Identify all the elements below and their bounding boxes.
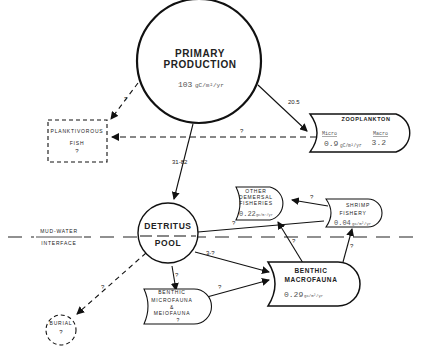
node-primary-production: PRIMARY PRODUCTION 103 gC/m²/yr bbox=[137, 0, 261, 123]
node-other-demersal-fisheries: OTHER DEMERSAL FISHERIES 0.22 gC/m²/yr bbox=[236, 187, 283, 220]
demersal-value: 0.22 bbox=[239, 210, 256, 218]
food-web-diagram: MUD-WATER INTERFACE 20.5 31-82 ? ? ? ? ?… bbox=[0, 0, 422, 354]
interface-label-1: MUD-WATER bbox=[40, 228, 78, 234]
node-shrimp-fishery: SHRIMP FISHERY 0.04 gC/m²/yr bbox=[326, 199, 382, 227]
node-detritus-pool: DETRITUS POOL bbox=[138, 203, 198, 263]
node-benthic-macrofauna: BENTHIC MACROFAUNA 0.29 gC/m²/yr bbox=[268, 262, 360, 306]
arrow-macro-to-demersal bbox=[278, 222, 303, 263]
micro-line-2: MICROFAUNA bbox=[151, 297, 192, 303]
macro-line-2: MACROFAUNA bbox=[285, 276, 338, 283]
demersal-line-3: FISHERIES bbox=[239, 200, 273, 206]
fish-line-1: PLANKTIVOROUS bbox=[51, 128, 104, 134]
flow-label-pp-fish: ? bbox=[124, 96, 128, 102]
pp-title-1: PRIMARY bbox=[175, 48, 225, 59]
macro-line-1: BENTHIC bbox=[294, 267, 327, 274]
arrow-detritus-to-burial bbox=[77, 253, 146, 314]
arrow-micro-to-macro bbox=[207, 280, 269, 297]
detritus-line-2: POOL bbox=[155, 238, 182, 248]
arrow-shrimp-to-demersal bbox=[292, 200, 328, 206]
flow-label-detritus-shrimp: ? bbox=[232, 220, 236, 226]
line-detritus-to-shrimp bbox=[198, 221, 324, 232]
micro-line-4: MEIOFAUNA bbox=[154, 310, 191, 316]
flow-label-zoo-fish: ? bbox=[240, 128, 244, 134]
demersal-unit: gC/m²/yr bbox=[256, 213, 273, 217]
zoo-unit: gC/m²/yr bbox=[340, 143, 362, 148]
pp-unit: gC/m²/yr bbox=[195, 82, 224, 89]
macro-unit: gC/m²/yr bbox=[304, 293, 324, 298]
flow-label-micro-macro: ? bbox=[218, 284, 222, 290]
macro-value: 0.29 bbox=[284, 290, 303, 299]
node-burial: BURIAL ? bbox=[46, 315, 76, 345]
shrimp-value: 0.04 bbox=[334, 219, 351, 227]
flow-label-detritus-macro: 3-? bbox=[206, 250, 215, 256]
micro-line-1: BENTHIC bbox=[158, 289, 186, 295]
flow-label-macro-demersal: ? bbox=[292, 238, 296, 244]
shrimp-line-1: SHRIMP bbox=[346, 202, 370, 208]
arrow-pp-to-zooplankton bbox=[258, 85, 307, 131]
flow-label-pp-detritus: 31-82 bbox=[172, 159, 188, 165]
arrow-detritus-to-micro bbox=[172, 266, 176, 290]
node-zooplankton: ZOOPLANKTON Micro Macro 0.9 gC/m²/yr 3.2 bbox=[310, 114, 410, 152]
node-planktivorous-fish: PLANKTIVOROUS FISH ? bbox=[48, 120, 107, 162]
flow-label-macro-shrimp: ? bbox=[350, 243, 354, 249]
shrimp-unit: gC/m²/yr bbox=[352, 221, 372, 226]
detritus-line-1: DETRITUS bbox=[144, 221, 191, 231]
pp-value: 103 bbox=[178, 80, 193, 89]
mud-water-interface: MUD-WATER INTERFACE bbox=[8, 226, 422, 248]
flow-label-detritus-micro: ? bbox=[175, 272, 179, 278]
pp-title-2: PRODUCTION bbox=[163, 59, 236, 70]
zoo-micro-value: 0.9 bbox=[324, 139, 339, 148]
fish-line-2: FISH bbox=[70, 140, 85, 146]
flow-label-pp-zoo: 20.5 bbox=[288, 99, 300, 105]
micro-value: ? bbox=[177, 317, 180, 323]
flow-label-shrimp-demersal: ? bbox=[310, 194, 314, 200]
shrimp-line-2: FISHERY bbox=[339, 210, 366, 216]
zoo-macro-label: Macro bbox=[373, 131, 388, 137]
interface-label-2: INTERFACE bbox=[41, 240, 76, 246]
zoo-title: ZOOPLANKTON bbox=[342, 116, 391, 122]
zoo-micro-label: Micro bbox=[322, 131, 337, 137]
burial-label: BURIAL bbox=[50, 320, 73, 326]
zoo-macro-value: 3.2 bbox=[372, 138, 387, 147]
node-benthic-microfauna: BENTHIC MICROFAUNA & MEIOFAUNA ? bbox=[144, 289, 212, 324]
